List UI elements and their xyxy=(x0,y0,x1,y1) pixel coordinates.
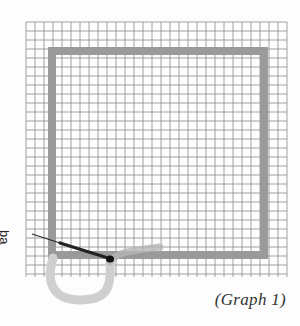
graph-paper-diagram xyxy=(0,0,300,326)
graph-paper-grid xyxy=(26,22,287,277)
stitched-square-outline xyxy=(52,51,264,255)
point-label: ba xyxy=(0,230,12,244)
stitch-diagram-figure: ba (Graph 1) xyxy=(0,0,300,326)
figure-caption: (Graph 1) xyxy=(215,290,286,310)
